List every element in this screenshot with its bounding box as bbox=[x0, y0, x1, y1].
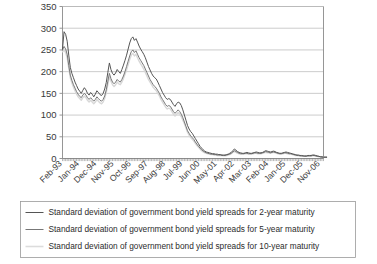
chart-legend: Standard deviation of government bond yi… bbox=[21, 202, 356, 258]
y-tick-label: 200 bbox=[41, 66, 57, 77]
y-tick-label: 150 bbox=[41, 88, 57, 99]
legend-label-2: Standard deviation of government bond yi… bbox=[49, 224, 316, 234]
line-chart: 050100150200250300350 Feb-93Jan-94Dec-94… bbox=[0, 0, 377, 264]
chart-figure: 050100150200250300350 Feb-93Jan-94Dec-94… bbox=[0, 0, 377, 264]
y-tick-label: 50 bbox=[46, 131, 57, 142]
y-tick-label: 100 bbox=[41, 109, 57, 120]
legend-label-1: Standard deviation of government bond yi… bbox=[49, 207, 316, 217]
y-tick-label: 300 bbox=[41, 23, 57, 34]
y-tick-label: 350 bbox=[41, 1, 57, 12]
legend-label-3: Standard deviation of government bond yi… bbox=[49, 241, 321, 251]
y-tick-label: 250 bbox=[41, 44, 57, 55]
